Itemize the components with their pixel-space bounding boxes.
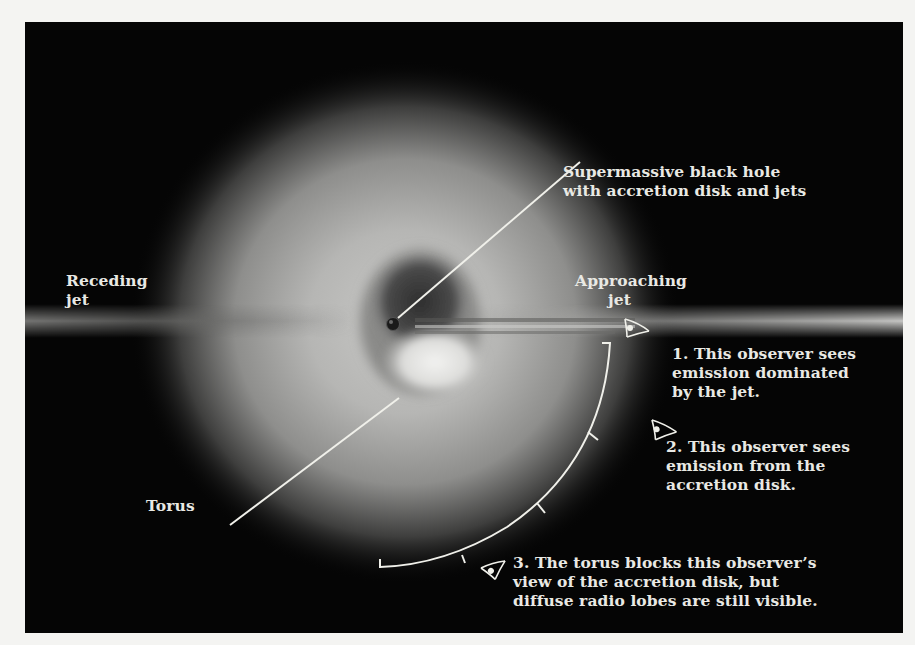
observer-3-caption: 3. The torus blocks this observer’s view…	[513, 553, 818, 610]
observer-2-caption: 2. This observer sees emission from the …	[666, 437, 850, 494]
torus-label: Torus	[146, 496, 195, 515]
receding-jet-label: Receding jet	[66, 271, 148, 309]
receding-jet	[25, 304, 355, 338]
jet-streaks	[415, 318, 635, 334]
black-hole	[387, 318, 400, 331]
approaching-jet-label: Approaching jet	[575, 271, 687, 309]
diagram-panel: Supermassive black hole with accretion d…	[25, 22, 903, 633]
observer-1-caption: 1. This observer sees emission dominated…	[672, 344, 856, 401]
accretion-disk-glow	[380, 324, 490, 400]
agn-illustration	[25, 22, 903, 633]
black-hole-label: Supermassive black hole with accretion d…	[563, 162, 806, 200]
